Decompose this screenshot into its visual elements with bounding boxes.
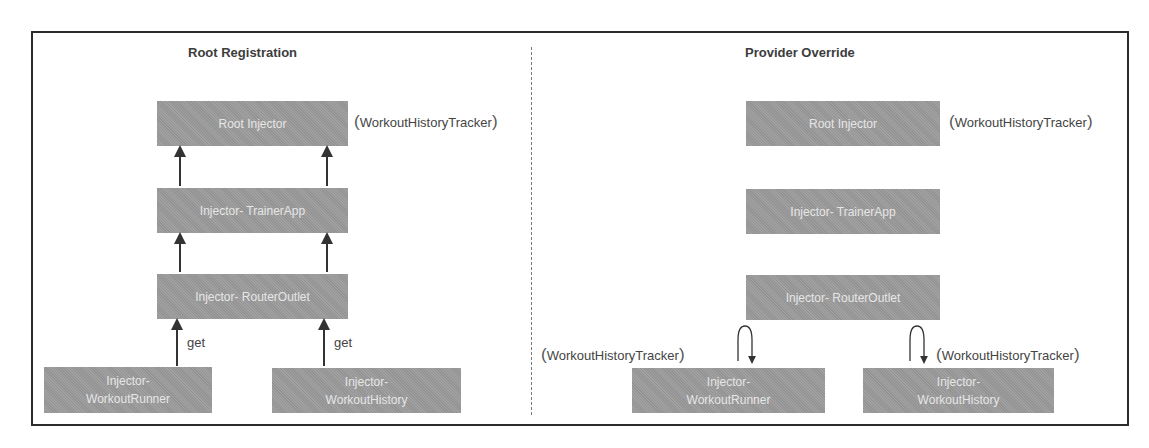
right-workouthistory-line1: Injector-: [937, 373, 980, 391]
right-workouthistory-line2: WorkoutHistory: [918, 391, 1000, 409]
right-root-provider-note: (WorkoutHistoryTracker): [949, 112, 1093, 132]
left-workoutrunner-line2: WorkoutRunner: [86, 390, 170, 408]
left-workoutrunner-injector-box: Injector- WorkoutRunner: [44, 367, 212, 413]
right-trainerapp-injector-box: Injector- TrainerApp: [746, 189, 940, 234]
left-panel-title: Root Registration: [188, 45, 297, 60]
left-workouthistory-line1: Injector-: [345, 373, 388, 391]
right-root-injector-box: Root Injector: [746, 101, 940, 146]
right-runner-provider-note: (WorkoutHistoryTracker): [541, 345, 685, 365]
right-workoutrunner-line1: Injector-: [707, 373, 750, 391]
panel-divider: [531, 47, 532, 415]
right-history-provider-note: (WorkoutHistoryTracker): [936, 345, 1080, 365]
right-workoutrunner-line2: WorkoutRunner: [687, 391, 771, 409]
left-workouthistory-injector-box: Injector- WorkoutHistory: [272, 368, 461, 413]
left-root-provider-note: (WorkoutHistoryTracker): [354, 112, 498, 132]
left-root-injector-box: Root Injector: [157, 101, 348, 146]
right-root-provider-note-text: WorkoutHistoryTracker: [955, 115, 1087, 130]
right-workouthistory-injector-box: Injector- WorkoutHistory: [863, 368, 1054, 413]
left-workouthistory-line2: WorkoutHistory: [326, 391, 408, 409]
right-routeroutlet-injector-box: Injector- RouterOutlet: [746, 275, 940, 320]
right-history-provider-note-text: WorkoutHistoryTracker: [942, 348, 1074, 363]
left-root-provider-note-text: WorkoutHistoryTracker: [360, 115, 492, 130]
left-trainerapp-injector-box: Injector- TrainerApp: [157, 188, 348, 233]
right-workoutrunner-injector-box: Injector- WorkoutRunner: [632, 368, 825, 413]
left-history-get-label: get: [334, 335, 352, 350]
left-routeroutlet-injector-box: Injector- RouterOutlet: [157, 274, 348, 319]
right-panel-title: Provider Override: [745, 45, 855, 60]
left-workoutrunner-line1: Injector-: [106, 372, 149, 390]
right-runner-provider-note-text: WorkoutHistoryTracker: [547, 348, 679, 363]
left-runner-get-label: get: [187, 335, 205, 350]
